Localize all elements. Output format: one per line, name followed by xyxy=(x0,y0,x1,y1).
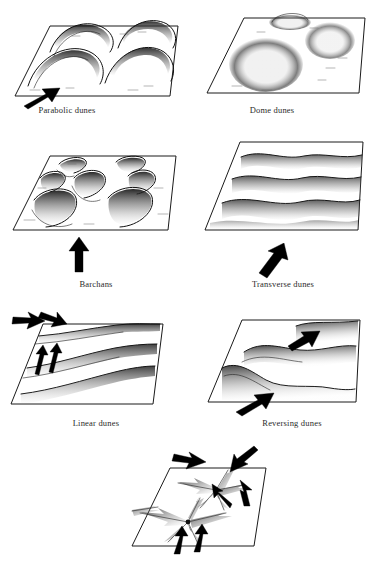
panel-linear-dunes xyxy=(5,312,173,412)
star-dunes-illustration xyxy=(108,450,280,560)
panel-barchans xyxy=(8,142,180,242)
dome-dunes-illustration xyxy=(202,8,367,103)
wind-arrow-barchans xyxy=(68,237,92,273)
dune-dome-large xyxy=(229,36,303,92)
caption-reversing-dunes: Reversing dunes xyxy=(232,418,352,428)
linear-dunes-illustration xyxy=(5,312,173,412)
dune-dome-back xyxy=(269,13,311,30)
reversing-dunes-illustration xyxy=(200,310,368,412)
parabolic-dunes-illustration xyxy=(10,8,180,108)
dune-dome-right xyxy=(305,21,355,59)
caption-parabolic-dunes: Parabolic dunes xyxy=(7,105,127,115)
panel-reversing-dunes xyxy=(200,310,368,412)
panel-dome-dunes xyxy=(202,8,367,103)
caption-linear-dunes: Linear dunes xyxy=(36,418,156,428)
caption-dome-dunes: Dome dunes xyxy=(212,105,332,115)
panel-parabolic-dunes xyxy=(10,8,180,108)
panel-transverse-dunes xyxy=(200,130,368,242)
caption-transverse-dunes: Transverse dunes xyxy=(223,279,343,289)
dune-types-figure: Parabolic dunes xyxy=(0,0,372,561)
caption-barchans: Barchans xyxy=(36,279,156,289)
barchans-illustration xyxy=(8,142,180,242)
panel-star-dunes xyxy=(108,450,280,560)
wind-arrow-transverse xyxy=(257,243,291,279)
transverse-dunes-illustration xyxy=(200,130,368,242)
